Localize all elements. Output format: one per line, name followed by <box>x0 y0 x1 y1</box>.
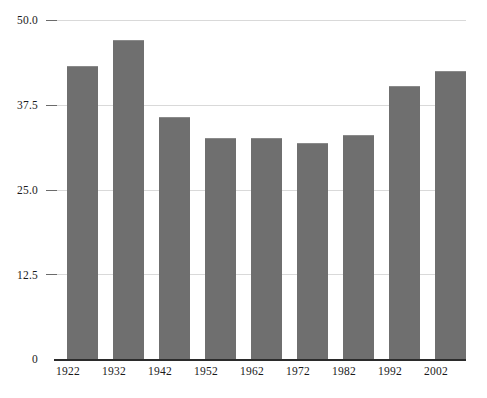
bar-chart: 50.0 37.5 25.0 12.5 0 1922 1932 1942 195… <box>0 0 487 398</box>
bar-1962 <box>251 138 282 359</box>
xtick-label-2002: 2002 <box>421 366 452 378</box>
ytick-label-0: 50.0 <box>0 15 38 27</box>
bar-1942 <box>159 117 190 359</box>
ytick-mark-3 <box>46 274 57 275</box>
bar-1992 <box>389 86 420 359</box>
bar-1952 <box>205 138 236 359</box>
ytick-label-1: 37.5 <box>0 100 38 112</box>
xtick-label-1922: 1922 <box>53 366 84 378</box>
xtick-label-1962: 1962 <box>237 366 268 378</box>
ytick-mark-1 <box>46 105 57 106</box>
xtick-label-1982: 1982 <box>329 366 360 378</box>
bar-1982 <box>343 135 374 359</box>
plot-area <box>57 20 466 359</box>
ytick-label-2: 25.0 <box>0 185 38 197</box>
x-axis-line <box>54 359 466 361</box>
bar-1932 <box>113 40 144 359</box>
ytick-mark-2 <box>46 190 57 191</box>
xtick-label-1952: 1952 <box>191 366 222 378</box>
xtick-label-1992: 1992 <box>375 366 406 378</box>
ytick-label-4: 0 <box>0 354 38 366</box>
xtick-label-1932: 1932 <box>99 366 130 378</box>
bar-1972 <box>297 143 328 359</box>
bar-2002 <box>435 71 466 359</box>
xtick-label-1972: 1972 <box>283 366 314 378</box>
ytick-mark-0 <box>46 20 57 21</box>
gridline-50 <box>57 20 466 21</box>
ytick-label-3: 12.5 <box>0 270 38 282</box>
bar-1922 <box>67 66 98 359</box>
xtick-label-1942: 1942 <box>145 366 176 378</box>
